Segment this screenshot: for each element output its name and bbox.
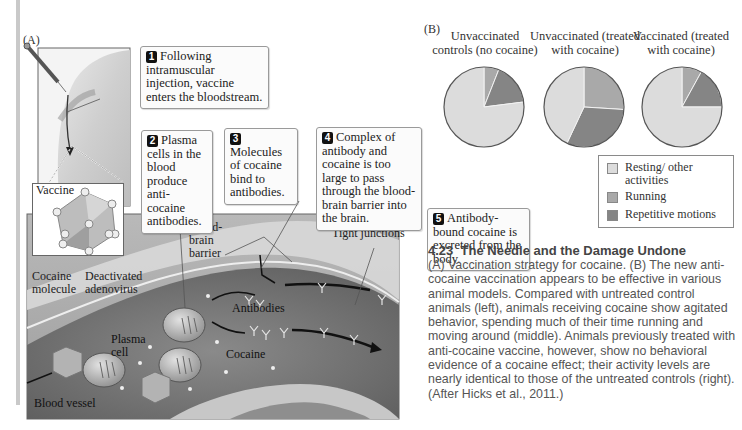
step-1-callout: 1Following intramuscular injection, vacc… <box>140 46 269 109</box>
pie-chart-unvaccinated-cocaine <box>544 67 624 147</box>
step-3-callout: 3Molecules of cocaine bind to antibodies… <box>224 128 298 205</box>
pie-1-title: Unvaccinated controls (no cocaine) <box>430 30 540 57</box>
pie-chart-vaccinated-cocaine <box>642 67 722 147</box>
adenovirus-icon <box>53 347 82 378</box>
step-2-text: Plasma cells in the blood produce anti-c… <box>147 133 202 228</box>
pie-3-title: Vaccinated (treated with cocaine) <box>626 30 736 57</box>
pie-2-title: Unvaccinated (treated with cocaine) <box>530 30 640 57</box>
pie-legend: Resting/ other activities Running Repeti… <box>598 155 734 228</box>
caption-body: (A) Vaccination strategy for cocaine. (B… <box>428 258 740 401</box>
pie-chart-unvaccinated-controls <box>444 67 524 147</box>
legend-swatch-resting <box>607 163 618 174</box>
legend-item-repetitive: Repetitive motions <box>607 208 716 221</box>
antibodies-label: Antibodies <box>232 302 285 315</box>
cocaine-molecule-label: Cocaine molecule <box>32 270 82 296</box>
blood-vessel-label: Blood vessel <box>34 397 96 410</box>
step-number-badge: 3 <box>230 133 241 145</box>
legend-item-running: Running <box>607 190 666 203</box>
cocaine-label: Cocaine <box>226 348 265 361</box>
legend-item-resting: Resting/ other activities <box>607 161 715 187</box>
step-number-badge: 2 <box>147 135 158 147</box>
legend-swatch-running <box>607 192 618 203</box>
figure-caption: 4.23 The Needle and the Damage Undone (A… <box>428 243 740 401</box>
step-number-badge: 4 <box>322 132 333 144</box>
step-4-text: Complex of antibody and cocaine is too l… <box>322 130 415 225</box>
step-4-callout: 4Complex of antibody and cocaine is too … <box>316 127 422 231</box>
step-1-text: Following intramuscular injection, vacci… <box>146 49 262 104</box>
vaccine-inset: Vaccine <box>32 183 124 256</box>
deactivated-adenovirus-label: Deactivated adenovirus <box>85 270 145 296</box>
adenovirus-icon <box>142 372 170 403</box>
step-number-badge: 5 <box>433 213 444 225</box>
step-2-callout: 2Plasma cells in the blood produce anti-… <box>141 130 213 234</box>
pie-charts <box>430 65 742 155</box>
vaccine-label: Vaccine <box>36 184 74 197</box>
step-number-badge: 1 <box>146 51 157 63</box>
legend-swatch-repetitive <box>607 210 618 221</box>
step-3-text: Molecules of cocaine bind to antibodies. <box>230 145 285 200</box>
figure-title: 4.23 The Needle and the Damage Undone <box>428 243 740 258</box>
plasma-cell-label: Plasma cell <box>111 333 151 359</box>
